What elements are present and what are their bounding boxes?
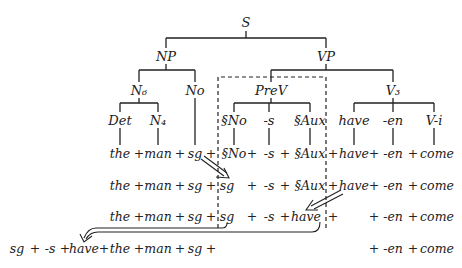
plus-sign: + xyxy=(134,178,144,193)
plus-sign: + xyxy=(328,146,338,161)
morpheme: the xyxy=(110,178,130,193)
plus-sign: + xyxy=(134,146,144,161)
plus-sign: + xyxy=(369,209,379,224)
morpheme: §Aux xyxy=(295,178,325,193)
node-PreV: PreV xyxy=(255,84,287,97)
plus-sign: + xyxy=(369,241,379,256)
node-sAux: §Aux xyxy=(294,114,326,127)
plus-sign: + xyxy=(175,209,185,224)
plus-sign: + xyxy=(99,241,109,256)
node-N6: N₆ xyxy=(131,84,148,97)
plus-sign: + xyxy=(206,241,216,256)
node-have: have xyxy=(338,114,369,127)
plus-sign: + xyxy=(206,209,216,224)
plus-sign: + xyxy=(175,146,185,161)
morpheme: sg xyxy=(188,146,202,161)
node-No: No xyxy=(185,84,204,97)
morpheme: §No xyxy=(222,146,247,161)
node-Det: Det xyxy=(108,114,131,127)
plus-sign: + xyxy=(369,178,379,193)
morpheme: man xyxy=(144,209,171,224)
transformation-diagram: SNPVPN₆NoPreVV₃DetN₄§No-s§Auxhave-enV-i … xyxy=(0,0,462,268)
plus-sign: + xyxy=(408,241,418,256)
morpheme: the xyxy=(110,241,130,256)
morpheme: have xyxy=(339,146,369,161)
plus-sign: + xyxy=(280,146,290,161)
plus-sign: + xyxy=(408,209,418,224)
plus-sign: + xyxy=(280,178,290,193)
node-s: -s xyxy=(263,114,274,127)
plus-sign: + xyxy=(280,209,290,224)
morpheme: come xyxy=(420,209,454,224)
morpheme: the xyxy=(110,209,130,224)
morpheme: come xyxy=(420,241,454,256)
plus-sign: + xyxy=(328,209,338,224)
morpheme: come xyxy=(420,178,454,193)
node-S: S xyxy=(242,16,251,29)
morpheme: man xyxy=(144,178,171,193)
morpheme: §Aux xyxy=(295,146,325,161)
node-NP: NP xyxy=(156,50,176,63)
plus-sign: + xyxy=(134,209,144,224)
morpheme: sg xyxy=(10,241,24,256)
morpheme: -en xyxy=(383,209,403,224)
plus-sign: + xyxy=(408,178,418,193)
morpheme: man xyxy=(144,146,171,161)
morpheme: -en xyxy=(383,241,403,256)
plus-sign: + xyxy=(328,178,338,193)
node-Vi: V-i xyxy=(426,114,443,127)
morpheme: sg xyxy=(220,209,234,224)
node-sNo: §No xyxy=(221,114,247,127)
plus-sign: + xyxy=(247,178,257,193)
node-V3: V₃ xyxy=(386,84,401,97)
morpheme: have xyxy=(339,178,369,193)
plus-sign: + xyxy=(408,146,418,161)
morpheme: come xyxy=(420,146,454,161)
morpheme: man xyxy=(144,241,171,256)
plus-sign: + xyxy=(134,241,144,256)
morpheme: -s xyxy=(264,209,275,224)
arrow-3 xyxy=(80,222,320,242)
plus-sign: + xyxy=(247,146,257,161)
morpheme: -s xyxy=(264,178,275,193)
node-en: -en xyxy=(383,114,403,127)
plus-sign: + xyxy=(369,146,379,161)
morpheme: -en xyxy=(383,178,403,193)
morpheme: the xyxy=(110,146,130,161)
arrow-2 xyxy=(306,190,343,210)
morpheme: sg xyxy=(188,209,202,224)
node-N4: N₄ xyxy=(150,114,167,127)
tree-lines xyxy=(0,0,462,268)
plus-sign: + xyxy=(247,209,257,224)
morpheme: sg xyxy=(188,241,202,256)
morpheme: have xyxy=(69,241,99,256)
plus-sign: + xyxy=(206,178,216,193)
plus-sign: + xyxy=(175,241,185,256)
morpheme: sg xyxy=(188,178,202,193)
morpheme: sg xyxy=(220,178,234,193)
morpheme: -en xyxy=(383,146,403,161)
plus-sign: + xyxy=(175,178,185,193)
morpheme: -s xyxy=(45,241,56,256)
plus-sign: + xyxy=(30,241,40,256)
node-VP: VP xyxy=(317,50,335,63)
morpheme: -s xyxy=(264,146,275,161)
plus-sign: + xyxy=(206,146,216,161)
morpheme: have xyxy=(291,209,321,224)
